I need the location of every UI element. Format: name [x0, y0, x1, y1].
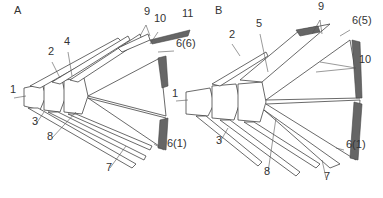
label-b-5: 8: [264, 166, 270, 177]
label-a-5: 8: [47, 131, 53, 142]
caudal-skeleton-figure: A1234876(1)6(6)91011B1235876(1)6(5)910: [0, 0, 383, 198]
label-b-7: 6(1): [346, 139, 366, 150]
label-a-11: 11: [182, 8, 193, 19]
label-b-4: 5: [256, 18, 262, 29]
label-a-4: 4: [64, 36, 70, 47]
label-a-2: 2: [48, 46, 54, 57]
label-a-1: 1: [10, 84, 16, 95]
label-b-9: 9: [318, 1, 324, 12]
label-a-7: 6(1): [167, 138, 187, 149]
label-a-8: 6(6): [176, 38, 196, 49]
panel-a-drawing: [14, 25, 190, 168]
label-b-10: 10: [359, 54, 371, 65]
diagram-drawing: [0, 0, 383, 198]
panel-letter-a-0: A: [14, 5, 21, 16]
panel-b-drawing: [176, 20, 362, 178]
label-a-3: 3: [32, 116, 38, 127]
label-b-1: 1: [172, 88, 178, 99]
label-b-6: 7: [324, 171, 330, 182]
label-a-9: 9: [144, 6, 150, 17]
panel-letter-b-0: B: [215, 5, 222, 16]
label-a-10: 10: [154, 13, 166, 24]
label-b-8: 6(5): [352, 15, 372, 26]
label-b-2: 2: [229, 29, 235, 40]
label-a-6: 7: [106, 162, 112, 173]
label-b-3: 3: [216, 135, 222, 146]
